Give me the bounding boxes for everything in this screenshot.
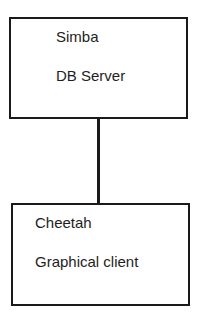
node-simba-name: Simba: [56, 28, 99, 45]
node-simba-role: DB Server: [56, 67, 125, 84]
node-cheetah: Cheetah Graphical client: [11, 203, 190, 306]
node-cheetah-name: Cheetah: [35, 214, 92, 231]
node-simba: Simba DB Server: [9, 17, 188, 119]
node-cheetah-role: Graphical client: [35, 253, 138, 270]
connector-line: [97, 118, 100, 204]
